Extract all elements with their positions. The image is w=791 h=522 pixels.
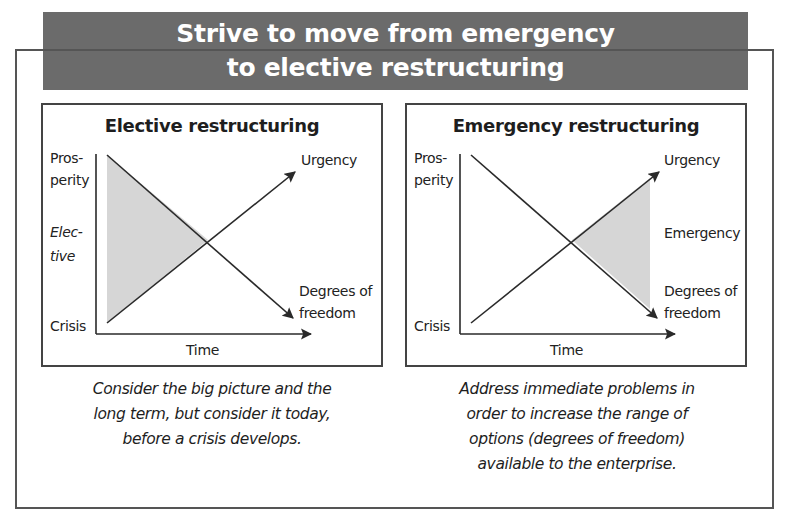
urgency-label: Urgency [664, 149, 720, 171]
x-label-time: Time [186, 339, 219, 361]
y-label-elective-1: Elec- [50, 221, 83, 243]
emergency-zone-shade [572, 178, 650, 309]
caption-line: Address immediate problems in [397, 377, 757, 402]
degrees-of-freedom-label-2: freedom [664, 302, 721, 324]
y-label-crisis: Crisis [50, 315, 86, 337]
elective-chart [43, 105, 385, 369]
elective-caption: Consider the big picture and the long te… [32, 377, 392, 452]
degrees-of-freedom-label-1: Degrees of [299, 280, 372, 302]
emergency-label: Emergency [664, 222, 740, 244]
y-label-prosperity-1: Pros- [414, 147, 447, 169]
elective-restructuring-panel: Elective restructuring Pros- perity Elec… [41, 103, 383, 367]
y-label-prosperity-2: perity [414, 169, 453, 191]
y-label-prosperity-1: Pros- [50, 147, 83, 169]
y-label-prosperity-2: perity [50, 169, 89, 191]
emergency-restructuring-panel: Emergency restructuring Pros- perity Cri… [405, 103, 747, 367]
caption-line: long term, but consider it today, [32, 402, 392, 427]
title-line-1: Strive to move from emergency [43, 17, 748, 51]
caption-line: order to increase the range of [397, 402, 757, 427]
caption-line: Consider the big picture and the [32, 377, 392, 402]
caption-line: options (degrees of freedom) [397, 427, 757, 452]
y-label-crisis: Crisis [414, 315, 450, 337]
caption-line: available to the enterprise. [397, 452, 757, 477]
degrees-of-freedom-label-1: Degrees of [664, 280, 737, 302]
x-label-time: Time [550, 339, 583, 361]
urgency-label: Urgency [301, 149, 357, 171]
degrees-of-freedom-label-2: freedom [299, 302, 356, 324]
caption-line: before a crisis develops. [32, 427, 392, 452]
elective-zone-shade [107, 155, 208, 323]
y-label-elective-2: tive [50, 245, 75, 267]
emergency-caption: Address immediate problems in order to i… [397, 377, 757, 477]
